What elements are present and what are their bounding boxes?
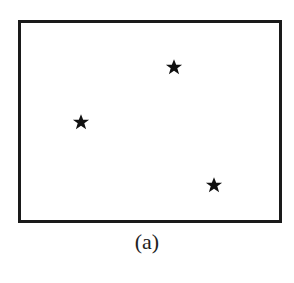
diagram-frame [18,20,282,223]
star-icon [165,58,183,76]
figure-caption: (a) [0,229,294,255]
star-icon [72,113,90,131]
star-icon [205,176,223,194]
